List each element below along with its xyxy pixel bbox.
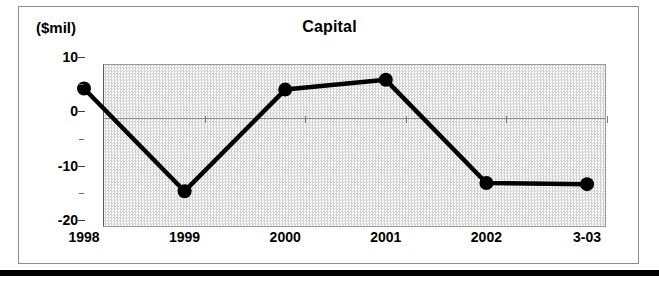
y-axis-major-tick (78, 57, 85, 58)
y-axis-minor-tick (79, 139, 84, 140)
y-axis-major-tick (78, 111, 85, 112)
x-axis-tick-label: 1999 (140, 229, 230, 245)
x-axis-tick-label: 2000 (240, 229, 330, 245)
chart-title: Capital (19, 18, 640, 36)
x-axis-tick-mark (305, 116, 306, 123)
x-axis-tick-label: 2002 (441, 229, 531, 245)
x-axis-tick-label: 3-03 (542, 229, 632, 245)
plot-area (103, 64, 606, 227)
y-axis-tick-label: -10 (34, 158, 78, 174)
y-axis-tick-label: -20 (34, 212, 78, 228)
y-axis-major-tick (78, 220, 85, 221)
y-axis-major-tick (78, 166, 85, 167)
x-axis-tick-label: 1998 (39, 229, 129, 245)
x-axis-tick-mark (506, 116, 507, 123)
y-axis-tick-label: 10 (34, 49, 78, 65)
x-axis-tick-mark (607, 116, 608, 123)
chart-figure-frame: ($mil) Capital (18, 6, 639, 264)
x-axis-tick-label: 2001 (341, 229, 431, 245)
bottom-divider-rule (0, 270, 659, 276)
y-axis-minor-tick (79, 193, 84, 194)
zero-reference-line (104, 118, 605, 119)
x-axis-tick-mark (406, 116, 407, 123)
y-axis-tick-label: 0 (34, 103, 78, 119)
y-axis-minor-tick (79, 84, 84, 85)
x-axis-tick-mark (205, 116, 206, 123)
